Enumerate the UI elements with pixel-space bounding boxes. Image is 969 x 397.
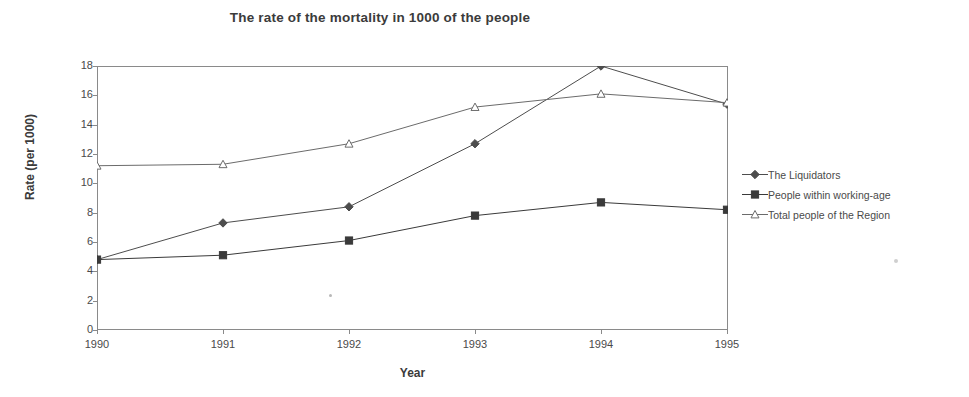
plot-series-layer	[97, 66, 728, 330]
chart-title: The rate of the mortality in 1000 of the…	[0, 10, 760, 25]
legend-item[interactable]: People within working-age	[742, 186, 957, 204]
data-point-marker	[97, 256, 101, 263]
y-tick-label: 16	[71, 88, 93, 100]
y-tick-label: 10	[71, 176, 93, 188]
y-tick-label: 8	[71, 206, 93, 218]
y-tick-label: 14	[71, 118, 93, 130]
x-tick-mark	[475, 330, 476, 334]
data-point-marker	[219, 219, 227, 227]
scan-artifact-dot	[894, 259, 898, 263]
x-tick-label: 1993	[445, 338, 505, 350]
data-point-marker	[345, 237, 352, 244]
data-point-marker	[471, 140, 479, 148]
y-tick-label: 18	[71, 59, 93, 71]
legend-marker-filled-square-icon	[742, 188, 768, 202]
legend-item[interactable]: The Liquidators	[742, 166, 957, 184]
y-axis: 024681012141618	[60, 66, 93, 330]
y-tick-label: 2	[71, 294, 93, 306]
y-axis-title: Rate (per 1000)	[23, 92, 37, 222]
legend-item-label: People within working-age	[768, 189, 891, 201]
x-tick-mark	[97, 330, 98, 334]
legend-item-label: The Liquidators	[768, 169, 840, 181]
x-tick-mark	[349, 330, 350, 334]
legend-item[interactable]: Total people of the Region	[742, 206, 957, 224]
data-point-marker	[219, 252, 226, 259]
data-point-marker	[345, 203, 353, 211]
chart-figure: The rate of the mortality in 1000 of the…	[0, 0, 969, 397]
series-3	[97, 90, 728, 169]
series-line	[97, 66, 727, 260]
legend-marker-open-triangle-icon	[742, 208, 768, 222]
data-point-marker	[723, 206, 728, 213]
series-line	[97, 202, 727, 259]
legend-item-label: Total people of the Region	[768, 209, 890, 221]
x-tick-label: 1994	[571, 338, 631, 350]
series-line	[97, 94, 727, 166]
legend-marker-filled-diamond-icon	[742, 168, 768, 182]
series-2	[97, 199, 728, 263]
x-tick-mark	[601, 330, 602, 334]
y-tick-label: 12	[71, 147, 93, 159]
x-tick-label: 1992	[319, 338, 379, 350]
y-tick-label: 6	[71, 235, 93, 247]
scan-artifact-dot	[329, 294, 332, 297]
x-tick-label: 1995	[697, 338, 757, 350]
data-point-marker	[471, 212, 478, 219]
x-tick-mark	[727, 330, 728, 334]
chart-legend: The LiquidatorsPeople within working-age…	[742, 166, 957, 226]
x-axis-title: Year	[97, 366, 728, 380]
x-tick-mark	[223, 330, 224, 334]
y-tick-label: 0	[71, 323, 93, 335]
x-axis: 199019911992199319941995	[97, 330, 728, 360]
x-tick-label: 1990	[67, 338, 127, 350]
x-tick-label: 1991	[193, 338, 253, 350]
y-tick-label: 4	[71, 264, 93, 276]
data-point-marker	[597, 199, 604, 206]
